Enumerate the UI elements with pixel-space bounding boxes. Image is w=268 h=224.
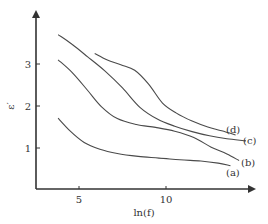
y-tick-label-2: 2	[25, 101, 31, 112]
curve-b	[58, 60, 239, 161]
x-axis-label: ln(f)	[133, 207, 154, 218]
y-tick-label-3: 3	[25, 59, 31, 70]
x-tick-label-10: 10	[160, 194, 173, 205]
y-tick-label-1: 1	[25, 143, 31, 154]
x-tick-label-5: 5	[76, 194, 82, 205]
y-axis-label: ε′	[5, 102, 16, 110]
y-ticks: 1 2 3	[25, 59, 40, 154]
curve-label-b: (b)	[241, 157, 255, 168]
dielectric-chart: 5 10 1 2 3 ln(f) ε′ (d) (c) (b) (a)	[0, 0, 268, 224]
curves	[58, 35, 246, 166]
curve-c	[58, 35, 246, 141]
curve-label-d: (d)	[226, 124, 240, 135]
curve-label-a: (a)	[226, 167, 240, 178]
curve-label-c: (c)	[243, 135, 257, 146]
